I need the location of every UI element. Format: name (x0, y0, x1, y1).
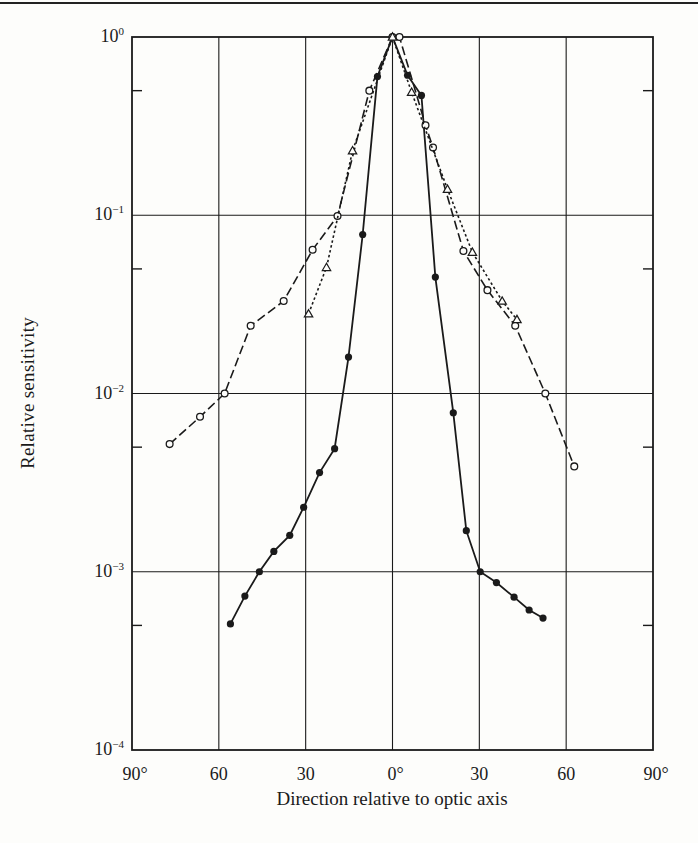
data-point-filled-circle (450, 409, 457, 416)
data-point-filled-circle (316, 469, 323, 476)
data-point-open-circle (460, 248, 467, 255)
data-point-filled-circle (463, 527, 470, 534)
data-point-open-circle (484, 287, 491, 294)
chart-plot (0, 0, 698, 843)
data-point-filled-circle (526, 606, 533, 613)
data-point-filled-circle (477, 568, 484, 575)
data-point-open-circle (280, 298, 287, 305)
data-point-filled-circle (493, 579, 500, 586)
data-point-open-triangle (468, 248, 476, 255)
data-point-filled-circle (510, 594, 517, 601)
x-tick-label: 60 (557, 764, 575, 785)
data-point-filled-circle (286, 532, 293, 539)
x-tick-label: 90° (122, 764, 147, 785)
data-point-open-circle (366, 87, 373, 94)
data-point-open-circle (430, 144, 437, 151)
data-point-filled-circle (359, 231, 366, 238)
data-point-open-triangle (498, 297, 506, 304)
data-point-open-circle (571, 463, 578, 470)
series-line-open-circles (170, 37, 575, 466)
y-tick-label: 10−2 (94, 381, 124, 403)
data-point-open-circle (542, 390, 549, 397)
data-point-filled-circle (270, 548, 277, 555)
y-tick-label: 100 (101, 25, 125, 47)
data-point-filled-circle (432, 273, 439, 280)
data-point-open-triangle (322, 263, 330, 270)
data-point-filled-circle (241, 593, 248, 600)
y-tick-label: 10−3 (94, 560, 124, 582)
y-tick-label: 10−1 (94, 203, 124, 225)
data-point-open-circle (512, 322, 519, 329)
data-point-filled-circle (539, 614, 546, 621)
x-axis-label: Direction relative to optic axis (276, 788, 507, 810)
data-point-open-circle (309, 246, 316, 253)
y-axis-label: Relative sensitivity (17, 317, 39, 469)
data-point-open-circle (221, 390, 228, 397)
series-line-filled-circles (230, 37, 543, 624)
data-point-filled-circle (331, 445, 338, 452)
x-tick-label: 30 (470, 764, 488, 785)
data-point-open-triangle (348, 147, 356, 154)
data-point-filled-circle (256, 568, 263, 575)
x-tick-label: 60 (210, 764, 228, 785)
data-point-open-circle (166, 441, 173, 448)
data-point-filled-circle (345, 354, 352, 361)
data-point-filled-circle (227, 620, 234, 627)
data-point-open-circle (197, 413, 204, 420)
x-tick-label: 0° (387, 764, 403, 785)
y-tick-label: 10−4 (94, 738, 124, 760)
x-tick-label: 90° (643, 764, 668, 785)
data-point-filled-circle (300, 504, 307, 511)
data-point-open-circle (396, 34, 403, 41)
data-point-filled-circle (418, 92, 425, 99)
data-point-open-circle (247, 322, 254, 329)
x-tick-label: 30 (297, 764, 315, 785)
